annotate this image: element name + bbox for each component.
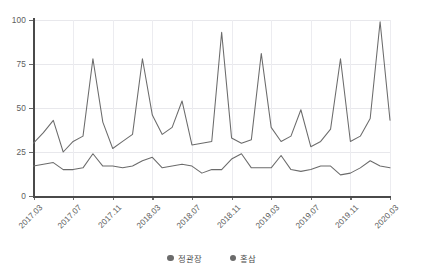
series-line-jungkwanjang — [34, 22, 391, 152]
series-line-hongsam — [34, 154, 391, 175]
legend-label: 정관장 — [178, 252, 202, 264]
legend-item-hongsam[interactable]: 홍삼 — [230, 252, 257, 264]
line-chart: 1007550250 2017.032017.072017.112018.032… — [0, 0, 423, 280]
legend-dot-icon — [167, 255, 174, 262]
legend-item-jungkwanjang[interactable]: 정관장 — [167, 252, 202, 264]
legend-dot-icon — [230, 255, 237, 262]
series-layer — [0, 0, 423, 280]
chart-legend: 정관장 홍삼 — [0, 252, 423, 264]
legend-label: 홍삼 — [240, 252, 256, 264]
